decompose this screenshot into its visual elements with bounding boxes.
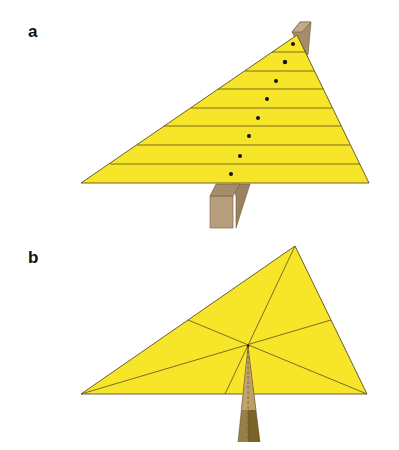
medians (81, 246, 367, 394)
panel-a-diagram (0, 0, 399, 230)
pointed-support (238, 346, 260, 442)
panel-label-b: b (28, 248, 38, 268)
centroid-point (247, 345, 250, 348)
beam-front (210, 184, 250, 228)
triangle-b (81, 246, 367, 394)
triangle-a (81, 35, 369, 183)
